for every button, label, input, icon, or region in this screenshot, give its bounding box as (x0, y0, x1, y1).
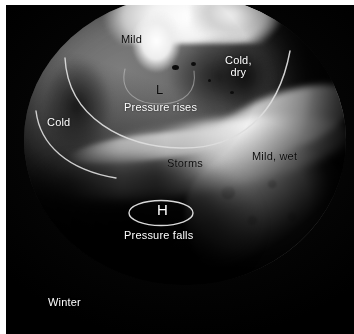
label-cold: Cold (47, 116, 70, 128)
figure-container: Mild Cold, dry Cold Pressure rises Storm… (0, 0, 354, 334)
label-pressure-falls: Pressure falls (124, 229, 193, 241)
label-mild: Mild (121, 33, 142, 45)
label-cold-dry: Cold, dry (225, 54, 252, 78)
limb-shadow (24, 157, 282, 285)
label-mild-wet: Mild, wet (252, 150, 297, 162)
satellite-image-plate: Mild Cold, dry Cold Pressure rises Storm… (6, 5, 354, 334)
label-season-caption: Winter (48, 296, 81, 308)
label-pressure-rises: Pressure rises (124, 101, 197, 113)
label-storms: Storms (167, 157, 203, 169)
label-low-pressure-marker: L (156, 84, 163, 96)
earth-globe (24, 5, 346, 285)
label-high-pressure-marker: H (157, 204, 168, 216)
globe-wrapper (24, 5, 346, 285)
